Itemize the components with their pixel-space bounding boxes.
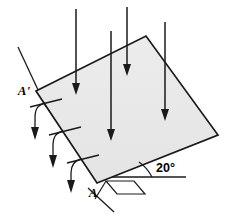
label-a-prime: A' <box>17 83 31 98</box>
ground-perspective-marker <box>95 181 145 199</box>
curve-arrowhead <box>67 180 75 193</box>
label-angle-20deg: 20° <box>156 161 175 175</box>
perspective-parallelogram <box>106 181 145 194</box>
curve-shaft <box>71 159 81 183</box>
curve-shaft <box>53 131 63 158</box>
figure-root: A' A 20° <box>0 0 234 216</box>
label-a: A <box>88 185 98 200</box>
curve-arrowhead <box>31 127 39 140</box>
vertical-ray-3 <box>123 7 131 76</box>
curve-shaft <box>35 103 45 130</box>
inclined-plane-diagram: A' A 20° <box>0 0 234 216</box>
curve-arrowhead <box>49 155 57 168</box>
